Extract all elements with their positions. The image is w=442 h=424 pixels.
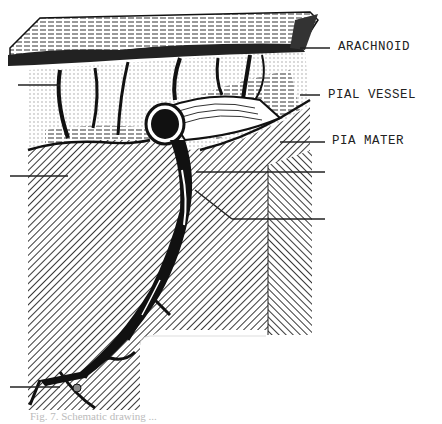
- meninges-illustration: [0, 0, 442, 424]
- label-arachnoid: ARACHNOID: [338, 40, 410, 54]
- label-pia-mater: PIA MATER: [332, 134, 404, 148]
- figure-caption: Fig. 7. Schematic drawing ...: [30, 410, 157, 422]
- label-pial-vessel: PIAL VESSEL: [328, 88, 416, 102]
